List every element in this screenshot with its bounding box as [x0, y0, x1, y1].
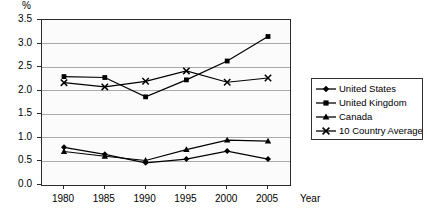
data-point-marker [62, 74, 67, 79]
legend-label: United States [337, 84, 396, 94]
plot-svg [42, 20, 290, 185]
y-axis-unit-label: % [22, 1, 31, 11]
x-tick-label: 2000 [206, 194, 246, 204]
data-point-marker [266, 34, 271, 39]
data-point-marker [143, 94, 148, 99]
x-tick-label: 1995 [165, 194, 205, 204]
legend-marker-triangle-icon [315, 111, 337, 123]
legend-marker-square-icon [315, 97, 337, 109]
y-tick-label: 1.5 [6, 108, 32, 118]
x-tick-label: 2005 [247, 194, 287, 204]
x-axis-title: Year [300, 194, 320, 204]
legend-marker-cross-icon [315, 125, 337, 137]
x-tick-mark [145, 185, 146, 189]
chart-figure: % 0.00.51.01.52.02.53.03.5 1980198519901… [0, 0, 427, 221]
y-tick-label: 3.0 [6, 38, 32, 48]
data-point-marker [184, 77, 189, 82]
legend-item-1[interactable]: United Kingdom [315, 96, 420, 110]
x-tick-mark [185, 185, 186, 189]
y-tick-label: 2.0 [6, 85, 32, 95]
series-line-2 [64, 140, 268, 160]
data-point-marker [102, 75, 107, 80]
y-tick-label: 2.5 [6, 61, 32, 71]
y-tick-label: 3.5 [6, 14, 32, 24]
x-tick-mark [267, 185, 268, 189]
data-point-marker [61, 148, 67, 154]
data-point-marker [225, 59, 230, 64]
x-tick-mark [226, 185, 227, 189]
legend-item-2[interactable]: Canada [315, 110, 420, 124]
x-tick-mark [104, 185, 105, 189]
series-line-3 [64, 71, 268, 87]
chart-legend: United StatesUnited KingdomCanada10 Coun… [311, 78, 423, 140]
legend-label: Canada [337, 112, 372, 122]
data-point-marker [224, 148, 230, 154]
legend-label: 10 Country Average [337, 126, 423, 136]
legend-item-3[interactable]: 10 Country Average [315, 124, 420, 138]
x-tick-label: 1985 [84, 194, 124, 204]
y-tick-label: 1.0 [6, 132, 32, 142]
legend-label: United Kingdom [337, 98, 407, 108]
y-tick-label: 0.0 [6, 179, 32, 189]
legend-item-0[interactable]: United States [315, 82, 420, 96]
x-tick-mark [63, 185, 64, 189]
x-tick-label: 1990 [125, 194, 165, 204]
legend-marker-diamond-icon [315, 83, 337, 95]
y-tick-label: 0.5 [6, 155, 32, 165]
x-tick-label: 1980 [43, 194, 83, 204]
plot-area [41, 19, 291, 186]
